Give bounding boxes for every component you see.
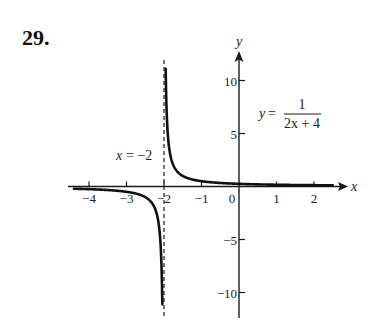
x-axis-label: x [350,179,358,194]
x-tick-label: 2 [311,191,318,206]
x-tick-label: 1 [273,191,280,206]
function-graph: 29. x y −4−3−2−1012 105−5−10 x = −2 y = … [0,0,372,329]
svg-text:x: x [115,148,123,163]
problem-number: 29. [22,25,50,50]
equation-denominator: 2x + 4 [284,116,320,131]
y-tick-label: 10 [224,74,237,89]
y-axis-label: y [234,34,243,49]
x-tick-label: −1 [195,191,209,206]
curve-left-branch [74,189,162,305]
asymptote-label: x = −2 [115,148,152,163]
equation-numerator: 1 [299,97,306,112]
x-tick-label: −4 [82,191,96,206]
svg-text:= −2: = −2 [126,148,152,163]
y-tick-label: −5 [223,233,237,248]
y-tick-label: 5 [231,127,238,142]
svg-text:y: y [257,106,266,121]
y-tick-label: −10 [217,286,237,301]
x-tick-label: 0 [229,191,236,206]
equation-label: y = 1 2x + 4 [257,97,321,131]
svg-text:=: = [268,106,276,121]
